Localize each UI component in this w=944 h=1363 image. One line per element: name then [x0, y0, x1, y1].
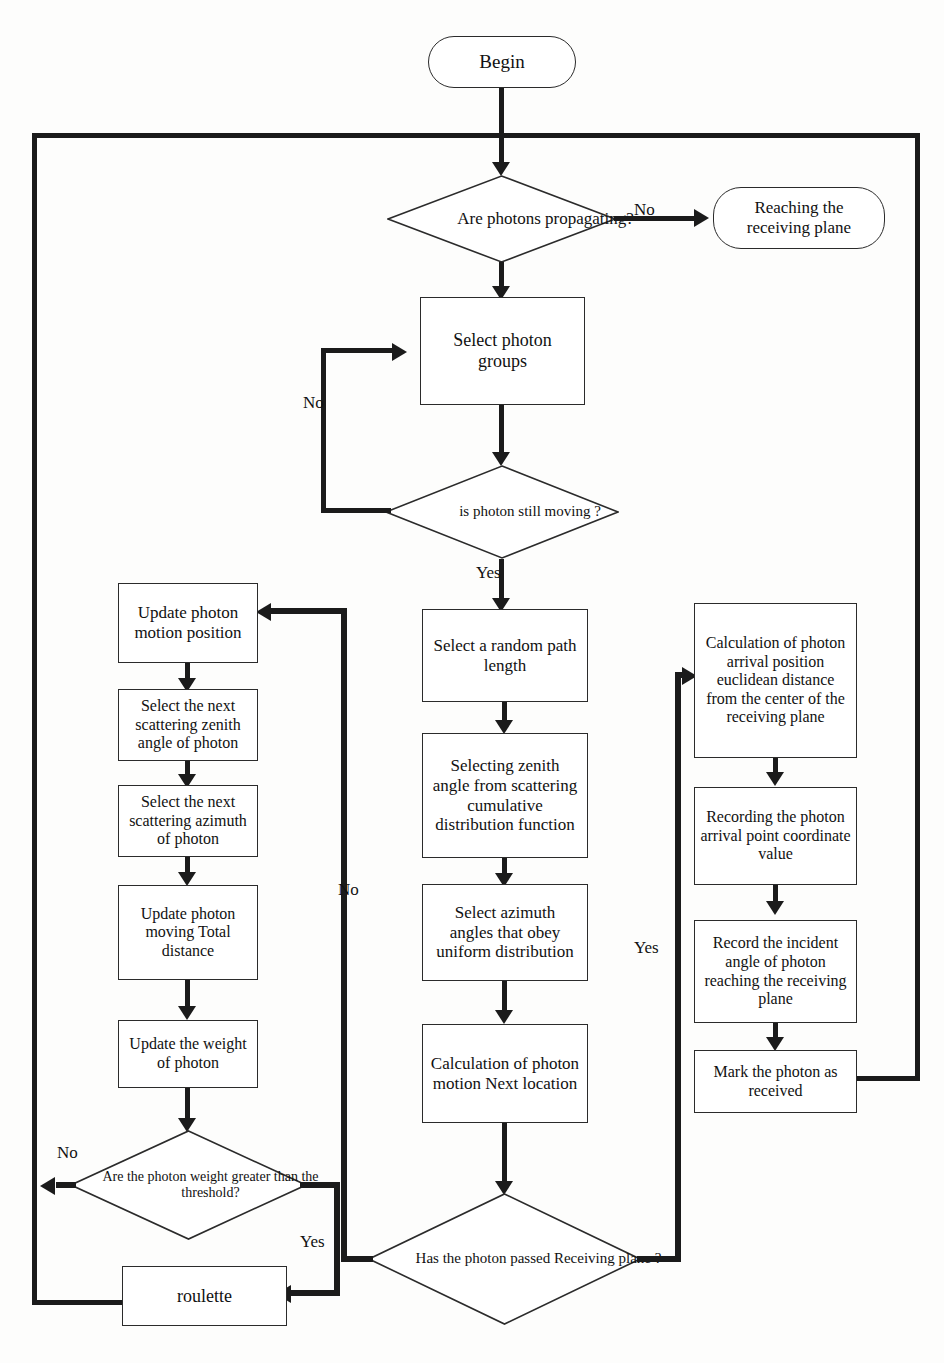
node-select-azimuth-uniform[interactable]: Select azimuth angles that obey uniform … — [422, 884, 588, 981]
node-record-arrival-coordinate[interactable]: Recording the photon arrival point coord… — [694, 787, 857, 885]
arrowhead-into-record-coordinate — [766, 772, 784, 786]
node-calc-euclidean-distance[interactable]: Calculation of photon arrival position e… — [694, 603, 857, 758]
node-calc-next-location[interactable]: Calculation of photon motion Next locati… — [422, 1024, 588, 1123]
node-select-azimuth-uniform-label: Select azimuth angles that obey uniform … — [432, 903, 578, 962]
arrowhead-into-reaching-plane — [694, 209, 709, 227]
node-are-photons-propagating[interactable]: Are photons propagating? — [387, 175, 616, 263]
edge-label-moving-yes: Yes — [476, 563, 501, 583]
edge-moving-no-v — [321, 348, 326, 513]
outer-loop-bottom — [32, 1300, 127, 1305]
arrowhead-into-next-location — [495, 1010, 513, 1024]
node-calc-euclidean-distance-label: Calculation of photon arrival position e… — [700, 634, 851, 727]
edge-label-weight-yes: Yes — [300, 1232, 325, 1252]
edge-label-weight-no: No — [57, 1143, 78, 1163]
arrowhead-into-is-moving — [492, 452, 510, 466]
node-roulette[interactable]: roulette — [122, 1266, 287, 1326]
node-is-photon-still-moving-label: is photon still moving ? — [385, 465, 675, 559]
node-roulette-label: roulette — [177, 1286, 232, 1307]
edge-label-passed-no: No — [338, 880, 359, 900]
node-is-photon-still-moving[interactable]: is photon still moving ? — [385, 465, 619, 559]
arrowhead-into-mark-received — [766, 1037, 784, 1051]
node-update-weight-of-photon[interactable]: Update the weight of photon — [118, 1020, 258, 1088]
node-mark-photon-received[interactable]: Mark the photon as received — [694, 1050, 857, 1113]
node-select-next-scattering-zenith-label: Select the next scattering zenith angle … — [124, 697, 252, 753]
node-update-weight-of-photon-label: Update the weight of photon — [124, 1035, 252, 1072]
node-record-incident-angle[interactable]: Record the incident angle of photon reac… — [694, 920, 857, 1023]
outer-loop-right-into-mark — [855, 1076, 920, 1081]
node-begin[interactable]: Begin — [428, 36, 576, 88]
edge-label-moving-no: No — [303, 393, 324, 413]
edge-begin-to-propagating — [499, 88, 504, 166]
edge-next-location-to-passed — [502, 1123, 507, 1187]
node-has-passed-receiving-plane[interactable]: Has the photon passed Receiving plane ? — [368, 1193, 641, 1325]
node-update-photon-motion-position[interactable]: Update photon motion position — [118, 583, 258, 663]
arrowhead-into-select-groups-loop — [392, 343, 407, 361]
edge-weight-yes-v — [334, 1182, 340, 1296]
edge-select-groups-to-moving — [499, 405, 504, 458]
edge-passed-no-h-top — [268, 608, 347, 614]
arrowhead-into-record-incident — [766, 901, 784, 915]
outer-loop-top — [32, 133, 920, 138]
arrowhead-into-update-motion-position — [256, 603, 271, 621]
edge-moving-no-h-top — [321, 348, 396, 353]
node-select-next-scattering-zenith[interactable]: Select the next scattering zenith angle … — [118, 689, 258, 761]
node-begin-label: Begin — [479, 51, 524, 73]
arrowhead-weight-no-to-rail — [40, 1177, 55, 1195]
edge-moving-no-h-bottom — [321, 508, 391, 513]
edge-label-passed-yes: Yes — [634, 938, 659, 958]
node-record-arrival-coordinate-label: Recording the photon arrival point coord… — [700, 808, 851, 864]
node-reaching-receiving-plane-label: Reaching the receiving plane — [724, 198, 874, 237]
node-reaching-receiving-plane[interactable]: Reaching the receiving plane — [713, 187, 885, 249]
node-select-next-scattering-azimuth[interactable]: Select the next scattering azimuth of ph… — [118, 785, 258, 857]
flowchart-canvas: Begin Are photons propagating? No Reachi… — [0, 0, 944, 1363]
node-select-photon-groups-label: Select photon groups — [429, 330, 576, 372]
arrowhead-into-zenith-cdf — [495, 720, 513, 734]
arrowhead-into-total-distance — [178, 872, 196, 886]
node-select-random-path-length-label: Select a random path length — [432, 636, 578, 675]
node-mark-photon-received-label: Mark the photon as received — [700, 1063, 851, 1100]
node-select-next-scattering-azimuth-label: Select the next scattering azimuth of ph… — [124, 793, 252, 849]
edge-weight-yes-h-bottom — [290, 1290, 340, 1296]
edge-weight-no-h — [56, 1182, 76, 1188]
node-calc-next-location-label: Calculation of photon motion Next locati… — [430, 1054, 580, 1093]
node-selecting-zenith-from-cdf[interactable]: Selecting zenith angle from scattering c… — [422, 733, 588, 858]
node-update-photon-motion-position-label: Update photon motion position — [125, 603, 251, 642]
outer-loop-left — [32, 133, 37, 1305]
node-selecting-zenith-from-cdf-label: Selecting zenith angle from scattering c… — [430, 756, 580, 835]
node-photon-weight-threshold[interactable]: Are the photon weight greater than the t… — [70, 1130, 307, 1240]
node-select-random-path-length[interactable]: Select a random path length — [422, 609, 588, 702]
edge-passed-yes-v — [675, 672, 681, 1262]
node-select-photon-groups[interactable]: Select photon groups — [420, 297, 585, 405]
edge-label-propagating-no: No — [634, 200, 655, 220]
node-update-photon-total-distance[interactable]: Update photon moving Total distance — [118, 885, 258, 980]
arrowhead-into-propagating — [492, 162, 510, 176]
outer-loop-right — [915, 133, 920, 1080]
node-update-photon-total-distance-label: Update photon moving Total distance — [124, 905, 252, 961]
node-record-incident-angle-label: Record the incident angle of photon reac… — [700, 934, 851, 1008]
arrowhead-into-update-weight — [178, 1006, 196, 1020]
